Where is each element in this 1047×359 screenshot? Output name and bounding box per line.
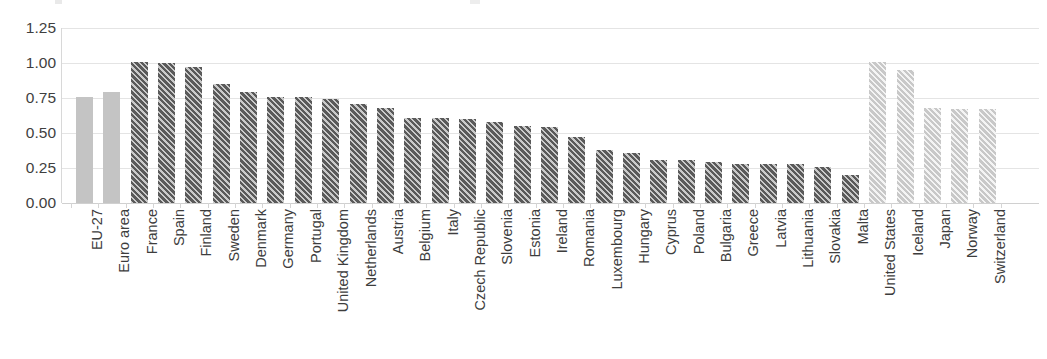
x-tick	[481, 203, 482, 208]
x-axis-tick-labels: EU-27Euro areaFranceSpainFinlandSwedenDe…	[62, 209, 1039, 359]
x-tick-label: Romania	[582, 209, 597, 267]
x-tick-label: Cyprus	[664, 209, 679, 255]
x-tick	[344, 203, 345, 208]
x-tick	[426, 203, 427, 208]
bar	[979, 109, 996, 203]
y-tick-label: 0.75	[0, 90, 56, 106]
x-tick-label: France	[145, 209, 160, 254]
x-tick	[235, 203, 236, 208]
x-tick	[809, 203, 810, 208]
x-tick	[290, 203, 291, 208]
x-tick	[508, 203, 509, 208]
x-tick	[673, 203, 674, 208]
bar	[678, 160, 695, 203]
bar	[842, 175, 859, 203]
x-tick-label: Slovenia	[500, 209, 515, 265]
x-tick-label: Belgium	[418, 209, 433, 261]
x-tick-label: United States	[883, 209, 898, 296]
bar	[76, 97, 93, 203]
x-tick-label: Iceland	[911, 209, 926, 256]
x-tick-label: Sweden	[227, 209, 242, 261]
bar	[267, 97, 284, 203]
x-tick	[98, 203, 99, 208]
y-tick-label: 0.25	[0, 160, 56, 176]
x-tick-label: Poland	[692, 209, 707, 254]
bar	[732, 164, 749, 203]
crumb-fragment-left	[55, 0, 62, 4]
y-tick-label: 1.00	[0, 55, 56, 71]
x-tick-label: Slovakia	[828, 209, 843, 264]
y-tick-label: 0.50	[0, 125, 56, 141]
bars-container	[62, 28, 1039, 203]
bar	[924, 108, 941, 203]
bar	[158, 63, 175, 203]
x-tick-label: Malta	[856, 209, 871, 244]
x-tick	[891, 203, 892, 208]
x-tick	[317, 203, 318, 208]
x-tick	[645, 203, 646, 208]
x-tick-label: Ireland	[555, 209, 570, 253]
x-tick	[618, 203, 619, 208]
y-tick-label: 0.00	[0, 195, 56, 211]
bar	[869, 62, 886, 203]
x-tick-label: Bulgaria	[719, 209, 734, 262]
bar	[623, 153, 640, 203]
x-tick	[919, 203, 920, 208]
x-tick	[372, 203, 373, 208]
x-tick	[782, 203, 783, 208]
x-tick	[126, 203, 127, 208]
x-tick	[973, 203, 974, 208]
bar	[814, 167, 831, 203]
x-tick-label: Finland	[199, 209, 214, 257]
x-tick-label: Denmark	[254, 209, 269, 268]
bar	[185, 67, 202, 203]
bar-chart: 0.000.250.500.751.001.25 EU-27Euro areaF…	[0, 0, 1047, 359]
bar	[951, 109, 968, 203]
bar	[596, 150, 613, 203]
x-tick	[71, 203, 72, 208]
x-tick-label: Portugal	[309, 209, 324, 263]
x-tick	[563, 203, 564, 208]
x-tick	[755, 203, 756, 208]
x-tick	[727, 203, 728, 208]
x-tick-label: Luxembourg	[610, 209, 625, 290]
x-tick	[208, 203, 209, 208]
x-tick	[590, 203, 591, 208]
x-tick-label: Norway	[965, 209, 980, 258]
x-tick	[536, 203, 537, 208]
x-tick-label: Lithuania	[801, 209, 816, 268]
x-tick-label: United Kingdom	[336, 209, 351, 312]
bar	[350, 104, 367, 203]
bar	[897, 70, 914, 203]
x-tick-label: Germany	[281, 209, 296, 269]
bar	[541, 127, 558, 203]
x-tick	[262, 203, 263, 208]
x-tick	[454, 203, 455, 208]
x-tick	[700, 203, 701, 208]
cropped-title-remnant	[55, 0, 515, 5]
x-tick-label: Latvia	[774, 209, 789, 248]
y-axis-tick-labels: 0.000.250.500.751.001.25	[0, 0, 56, 359]
bar	[213, 84, 230, 203]
x-tick	[946, 203, 947, 208]
x-tick	[1001, 203, 1002, 208]
crumb-fragment-right	[470, 0, 480, 4]
x-tick-label: Czech Republic	[473, 209, 488, 311]
x-tick-label: Austria	[391, 209, 406, 254]
bar	[240, 92, 257, 203]
x-tick-label: Netherlands	[364, 209, 379, 287]
x-tick	[153, 203, 154, 208]
bar	[705, 162, 722, 203]
bar	[760, 164, 777, 203]
bar	[322, 99, 339, 203]
x-tick-label: Japan	[938, 209, 953, 249]
x-tick	[399, 203, 400, 208]
x-tick-label: Spain	[172, 209, 187, 246]
bar	[514, 126, 531, 203]
bar	[295, 97, 312, 203]
x-tick-label: Greece	[746, 209, 761, 257]
x-tick-label: Italy	[446, 209, 461, 236]
x-tick	[837, 203, 838, 208]
bar	[103, 92, 120, 203]
x-tick	[864, 203, 865, 208]
